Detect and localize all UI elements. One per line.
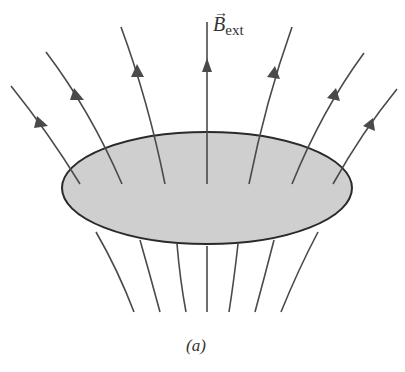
field-line-below-1 [96, 232, 134, 312]
arrow-icon-6 [327, 88, 340, 101]
vector-arrow-icon: → [214, 6, 227, 20]
arrowheads [34, 58, 375, 131]
field-line-below-3 [177, 244, 186, 312]
arrow-icon-4 [202, 58, 212, 72]
field-line-below-7 [281, 232, 318, 312]
figure-caption: (a) [186, 336, 206, 356]
field-label: →Bext [213, 14, 244, 38]
arrow-icon-7 [363, 118, 375, 131]
field-line-below-6 [255, 240, 274, 312]
field-line-below-2 [140, 240, 160, 312]
arrow-icon-3 [131, 64, 144, 77]
magnetic-field-diagram [0, 0, 405, 372]
field-subscript: ext [225, 22, 243, 38]
field-line-below-5 [229, 244, 238, 312]
